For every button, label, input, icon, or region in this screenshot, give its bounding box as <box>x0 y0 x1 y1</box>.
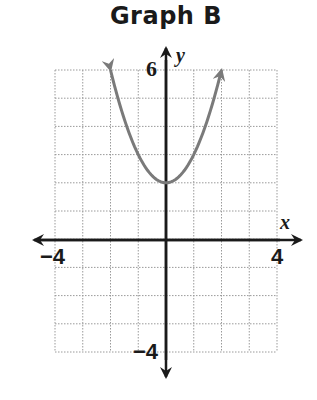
y-max-tick-label: 6 <box>146 56 157 81</box>
y-axis-label: y <box>174 44 185 67</box>
x-min-tick-label: −4 <box>40 244 66 269</box>
y-min-tick-label: −4 <box>133 339 159 364</box>
coordinate-plane: x y −4 4 6 −4 <box>0 0 317 400</box>
x-max-tick-label: 4 <box>271 244 284 269</box>
x-axis-label: x <box>279 211 290 233</box>
